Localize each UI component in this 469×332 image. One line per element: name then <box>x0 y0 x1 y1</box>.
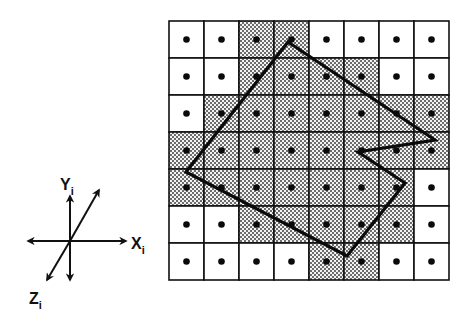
sample-dot <box>323 258 330 265</box>
sample-dot <box>323 221 330 228</box>
sample-dot <box>393 73 400 80</box>
x-axis-label: Xi <box>131 235 145 256</box>
sample-dot <box>428 110 435 117</box>
z-axis-arrow <box>47 241 70 280</box>
sample-dot <box>323 147 330 154</box>
sample-dot <box>393 258 400 265</box>
sample-dot <box>358 258 365 265</box>
sample-dot <box>218 36 225 43</box>
sample-dot <box>323 184 330 191</box>
sample-dot <box>428 73 435 80</box>
sample-dot <box>218 258 225 265</box>
sample-dot <box>253 184 260 191</box>
pixel-grid <box>169 21 449 280</box>
sample-dot <box>358 221 365 228</box>
sample-dot <box>358 73 365 80</box>
neg-z-axis-arrow <box>70 190 99 241</box>
sample-dot <box>428 147 435 154</box>
sample-dot <box>393 221 400 228</box>
sample-dot <box>288 184 295 191</box>
z-axis-label: Zi <box>29 290 42 311</box>
sample-dot <box>323 36 330 43</box>
sample-dot <box>183 110 190 117</box>
sample-dot <box>218 110 225 117</box>
sample-dot <box>288 258 295 265</box>
sample-dot <box>218 221 225 228</box>
sample-dot <box>183 36 190 43</box>
sample-dot <box>428 36 435 43</box>
y-axis-label: Yi <box>60 176 74 197</box>
rasterization-diagram: Yi Xi Zi <box>0 0 469 332</box>
sample-dot <box>183 258 190 265</box>
sample-dot <box>358 36 365 43</box>
sample-dot <box>358 184 365 191</box>
sample-dot <box>428 258 435 265</box>
sample-dot <box>288 147 295 154</box>
sample-dot <box>323 73 330 80</box>
sample-dot <box>183 73 190 80</box>
sample-dot <box>393 36 400 43</box>
sample-dot <box>183 184 190 191</box>
sample-dot <box>183 147 190 154</box>
sample-dot <box>428 221 435 228</box>
sample-dot <box>253 258 260 265</box>
sample-dot <box>393 147 400 154</box>
sample-dot <box>253 110 260 117</box>
sample-dot <box>428 184 435 191</box>
sample-dot <box>218 73 225 80</box>
sample-dot <box>183 221 190 228</box>
sample-dot <box>358 110 365 117</box>
sample-dot <box>253 147 260 154</box>
sample-dot <box>253 36 260 43</box>
coordinate-axes: Yi Xi Zi <box>28 176 145 311</box>
sample-dot <box>288 73 295 80</box>
sample-dot <box>253 221 260 228</box>
sample-dot <box>323 110 330 117</box>
sample-dot <box>288 110 295 117</box>
sample-dot <box>218 147 225 154</box>
